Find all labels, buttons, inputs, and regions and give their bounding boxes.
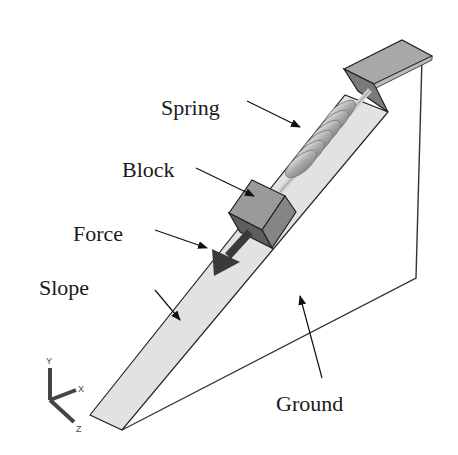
label-slope: Slope: [39, 275, 89, 300]
axis-z: [50, 400, 74, 422]
diagram-canvas: Spring Block Force Slope Ground Y X Z: [0, 0, 458, 455]
block-leader: [196, 168, 254, 196]
axis-z-label: Z: [76, 424, 82, 434]
axis-y-label: Y: [46, 356, 52, 366]
slope-leader: [155, 290, 180, 320]
label-ground: Ground: [276, 391, 343, 416]
spring-leader: [247, 101, 300, 127]
axis-triad: Y X Z: [46, 356, 84, 434]
diagram-svg: Spring Block Force Slope Ground Y X Z: [0, 0, 458, 455]
force-leader: [155, 230, 207, 248]
label-force: Force: [73, 221, 123, 246]
labels: Spring Block Force Slope Ground: [39, 95, 343, 416]
label-block: Block: [122, 157, 175, 182]
axis-x-label: X: [78, 384, 84, 394]
label-spring: Spring: [161, 95, 220, 120]
axis-x: [50, 390, 76, 400]
